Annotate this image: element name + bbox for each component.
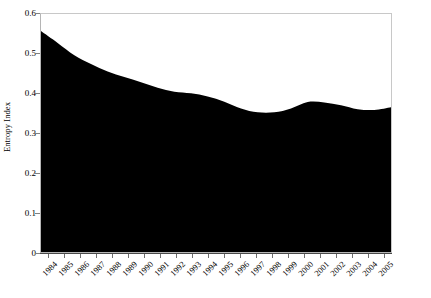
y-axis-tick-mark [35, 253, 40, 254]
x-axis-tick-mark [352, 254, 353, 258]
plot-area [40, 13, 392, 253]
x-axis-tick-mark [224, 254, 225, 258]
x-axis-tick-label: 2003 [344, 259, 363, 278]
x-axis-tick-label: 2000 [296, 259, 315, 278]
x-axis-tick-mark [272, 254, 273, 258]
x-axis-tick-mark [48, 254, 49, 258]
x-axis-tick-mark [336, 254, 337, 258]
x-axis-tick-label: 1985 [56, 259, 75, 278]
x-axis-tick-label: 2002 [328, 259, 347, 278]
x-axis-tick-mark [176, 254, 177, 258]
x-axis-tick-label: 1984 [40, 259, 59, 278]
x-axis-tick-label: 2005 [376, 259, 395, 278]
x-axis-tick-label: 1987 [88, 259, 107, 278]
x-axis-tick-mark [368, 254, 369, 258]
x-axis-tick-label: 1990 [136, 259, 155, 278]
x-axis-tick-label: 1994 [200, 259, 219, 278]
x-axis-tick-label: 1991 [152, 259, 171, 278]
x-axis-tick-mark [208, 254, 209, 258]
x-axis-tick-label: 1995 [216, 259, 235, 278]
x-axis-tick-label: 1989 [120, 259, 139, 278]
y-axis-tick-mark [35, 133, 40, 134]
x-axis-tick-mark [144, 254, 145, 258]
y-axis-tick-mark [35, 53, 40, 54]
x-axis-line [40, 253, 392, 254]
x-axis-tick-label: 1992 [168, 259, 187, 278]
x-axis-tick-mark [384, 254, 385, 258]
x-axis-tick-mark [304, 254, 305, 258]
x-axis-tick-mark [160, 254, 161, 258]
x-axis-tick-label: 2001 [312, 259, 331, 278]
x-axis-tick-label: 1999 [280, 259, 299, 278]
x-axis-tick-label: 1996 [232, 259, 251, 278]
entropy-index-area [41, 31, 391, 252]
x-axis-tick-label: 1986 [72, 259, 91, 278]
x-axis-tick-mark [128, 254, 129, 258]
x-axis-tick-label: 1998 [264, 259, 283, 278]
x-axis-tick-label: 2004 [360, 259, 379, 278]
x-axis-tick-mark [240, 254, 241, 258]
y-axis-tick-mark [35, 213, 40, 214]
x-axis-tick-mark [64, 254, 65, 258]
x-axis-tick-mark [112, 254, 113, 258]
x-axis-tick-label: 1988 [104, 259, 123, 278]
chart-figure: Entropy Index 00.10.20.30.40.50.6 198419… [0, 0, 431, 298]
y-axis-tick-mark [35, 93, 40, 94]
y-axis-tick-mark [35, 13, 40, 14]
x-axis-tick-mark [256, 254, 257, 258]
y-axis-tick-mark [35, 173, 40, 174]
x-axis-tick-mark [192, 254, 193, 258]
x-axis-tick-mark [320, 254, 321, 258]
area-series-svg [41, 14, 391, 252]
x-axis-tick-label: 1993 [184, 259, 203, 278]
x-axis-tick-mark [288, 254, 289, 258]
x-axis-tick-label: 1997 [248, 259, 267, 278]
x-axis-tick-mark [96, 254, 97, 258]
x-axis-tick-mark [80, 254, 81, 258]
